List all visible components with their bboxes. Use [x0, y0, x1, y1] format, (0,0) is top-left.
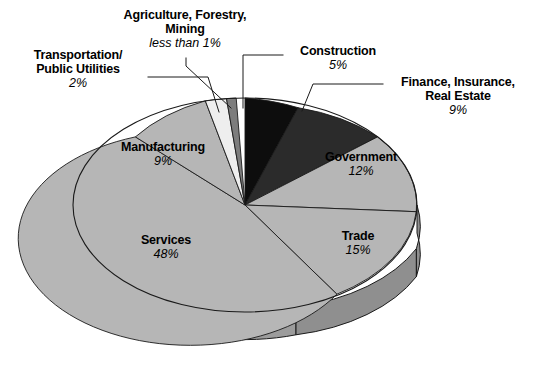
callout-finance-value: 9% [383, 103, 533, 117]
callout-agriculture: Agriculture, Forestry, Mining less than … [95, 8, 275, 50]
inner-label-services: Services 48% [118, 233, 214, 262]
callout-construction: Construction 5% [283, 44, 393, 72]
callout-transportation-value: 2% [8, 76, 148, 90]
callout-construction-line1: Construction [300, 44, 376, 58]
callout-agriculture-line1: Agriculture, Forestry, [124, 8, 247, 22]
inner-label-manufacturing: Manufacturing 9% [108, 140, 218, 169]
inner-label-government-name: Government [325, 150, 397, 164]
inner-label-services-name: Services [141, 233, 191, 247]
callout-construction-value: 5% [283, 58, 393, 72]
inner-label-government-value: 12% [311, 164, 411, 178]
callout-transportation-line2: Public Utilities [36, 62, 120, 76]
inner-label-trade-name: Trade [342, 229, 375, 243]
pie-chart-figure: Agriculture, Forestry, Mining less than … [0, 0, 537, 370]
callout-transportation: Transportation/ Public Utilities 2% [8, 48, 148, 90]
callout-agriculture-line2: Mining [165, 22, 204, 36]
inner-label-trade-value: 15% [325, 243, 391, 257]
inner-label-services-value: 48% [118, 247, 214, 261]
side-wall-government [416, 205, 420, 277]
callout-finance: Finance, Insurance, Real Estate 9% [383, 75, 533, 117]
callout-finance-line1: Finance, Insurance, [401, 75, 515, 89]
inner-label-government: Government 12% [311, 150, 411, 179]
callout-finance-line2: Real Estate [425, 89, 491, 103]
inner-label-manufacturing-name: Manufacturing [121, 140, 205, 154]
callout-transportation-line1: Transportation/ [34, 48, 123, 62]
inner-label-trade: Trade 15% [325, 229, 391, 258]
inner-label-manufacturing-value: 9% [108, 154, 218, 168]
